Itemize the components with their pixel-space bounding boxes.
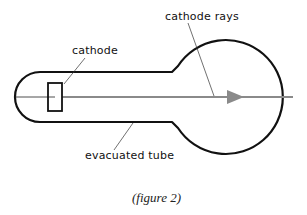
cathode-rays-leader-line <box>188 23 214 96</box>
ray-arrowhead-icon <box>227 90 244 104</box>
cathode-ray-tube-diagram <box>0 0 307 215</box>
evacuated-tube-leader-line <box>114 123 133 150</box>
cathode-label: cathode <box>72 44 118 57</box>
figure-caption: (figure 2) <box>132 190 181 206</box>
cathode-rays-label: cathode rays <box>165 10 239 23</box>
evacuated-tube-label: evacuated tube <box>85 149 174 162</box>
